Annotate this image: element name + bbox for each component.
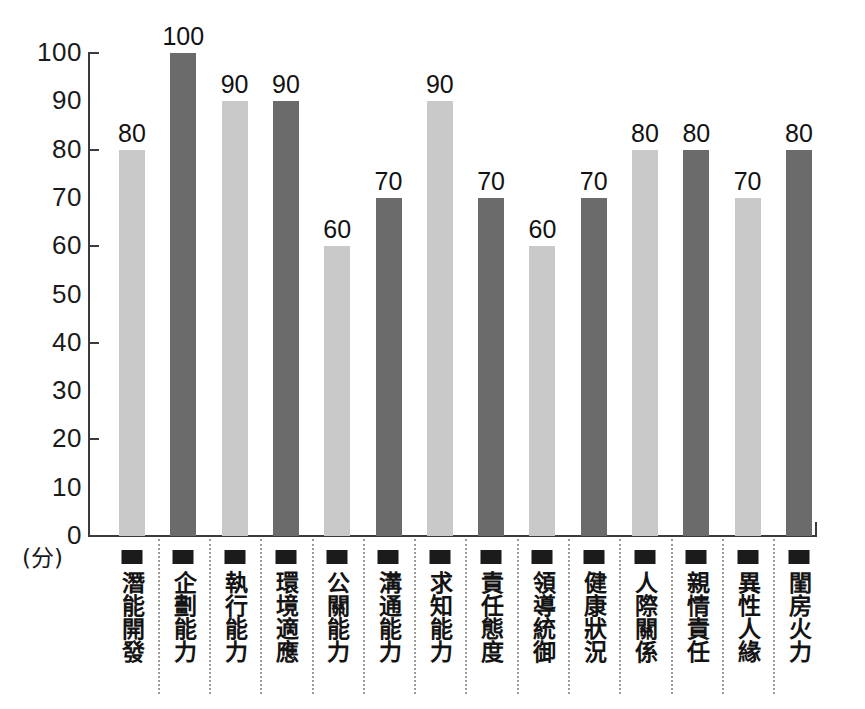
- bar-column: 70: [478, 53, 504, 536]
- bar-column: 80: [683, 53, 709, 536]
- square-bullet-icon: [121, 550, 142, 564]
- category-label: 企劃能力: [171, 571, 196, 663]
- bar-value-label: 80: [682, 121, 710, 146]
- y-axis-tick-label: 60: [24, 232, 82, 258]
- category-label: 公關能力: [325, 571, 350, 663]
- y-axis-tick-label-wrap: 90: [0, 87, 82, 113]
- bar-value-label: 100: [162, 24, 204, 49]
- category-label: 異性人緣: [735, 571, 760, 663]
- category-label: 閨房火力: [787, 571, 812, 663]
- square-bullet-icon: [788, 550, 809, 564]
- bar-value-label: 90: [426, 72, 454, 97]
- category-column: 公關能力: [312, 537, 363, 709]
- bar-value-label: 80: [631, 121, 659, 146]
- y-axis-tick-label: 30: [24, 377, 82, 403]
- y-axis-tick-label: 50: [24, 281, 82, 307]
- bar: [222, 101, 248, 536]
- y-axis-tick-label-wrap: 10: [0, 474, 82, 500]
- bar: [119, 150, 145, 536]
- square-bullet-icon: [173, 550, 194, 564]
- category-label: 人際關係: [633, 571, 658, 663]
- square-bullet-icon: [686, 550, 707, 564]
- bar-value-label: 70: [477, 169, 505, 194]
- category-label: 親情責任: [684, 571, 709, 663]
- category-column: 親情責任: [671, 537, 722, 709]
- bar: [324, 246, 350, 536]
- y-axis-tick-label: 100: [24, 39, 82, 65]
- y-axis-tick-label-wrap: 100: [0, 39, 82, 65]
- bar: [786, 150, 812, 536]
- square-bullet-icon: [429, 550, 450, 564]
- bar-column: 80: [119, 53, 145, 536]
- bar-value-label: 70: [375, 169, 403, 194]
- bar-value-label: 60: [323, 217, 351, 242]
- bar-value-label: 80: [118, 121, 146, 146]
- bar-column: 80: [632, 53, 658, 536]
- plot-area: 80100909060709070607080807080: [90, 53, 817, 536]
- category-column: 潛能開發: [106, 537, 157, 709]
- category-label: 求知能力: [428, 571, 453, 663]
- category-column: 環境適應: [260, 537, 311, 709]
- bar-chart: 1009080706050403020100 (分) 8010090906070…: [0, 0, 865, 709]
- bar: [529, 246, 555, 536]
- category-label: 健康狀況: [581, 571, 606, 663]
- bar-column: 90: [273, 53, 299, 536]
- square-bullet-icon: [327, 550, 348, 564]
- y-axis-tick-label: 80: [24, 136, 82, 162]
- square-bullet-icon: [583, 550, 604, 564]
- bar: [632, 150, 658, 536]
- bar-value-label: 70: [734, 169, 762, 194]
- category-column: 責任態度: [465, 537, 516, 709]
- square-bullet-icon: [378, 550, 399, 564]
- bar-value-label: 90: [221, 72, 249, 97]
- y-axis-tick-label-wrap: 40: [0, 329, 82, 355]
- y-axis-tick-label-wrap: 50: [0, 281, 82, 307]
- y-axis-tick-label: 10: [24, 474, 82, 500]
- category-column: 溝通能力: [363, 537, 414, 709]
- category-column: 求知能力: [414, 537, 465, 709]
- bar: [273, 101, 299, 536]
- square-bullet-icon: [634, 550, 655, 564]
- bar-column: 90: [427, 53, 453, 536]
- y-axis-unit-label: (分): [22, 546, 63, 570]
- category-label: 環境適應: [274, 571, 299, 663]
- y-axis-tick-label: 70: [24, 184, 82, 210]
- y-axis-tick-label-wrap: 30: [0, 377, 82, 403]
- y-axis-tick-label: 90: [24, 87, 82, 113]
- category-label: 潛能開發: [120, 571, 145, 663]
- bar-column: 70: [376, 53, 402, 536]
- bar: [427, 101, 453, 536]
- square-bullet-icon: [275, 550, 296, 564]
- category-label: 責任態度: [479, 571, 504, 663]
- bar-column: 90: [222, 53, 248, 536]
- category-column: 企劃能力: [158, 537, 209, 709]
- y-axis-tick-label-wrap: 80: [0, 136, 82, 162]
- y-axis-tick-label-wrap: 60: [0, 232, 82, 258]
- y-axis-tick-label-wrap: 70: [0, 184, 82, 210]
- bar-value-label: 80: [785, 121, 813, 146]
- bar-column: 70: [735, 53, 761, 536]
- category-column: 健康狀況: [568, 537, 619, 709]
- y-axis-tick-label: 20: [24, 425, 82, 451]
- category-label: 溝通能力: [376, 571, 401, 663]
- category-column: 閨房火力: [773, 537, 824, 709]
- bar-value-label: 60: [528, 217, 556, 242]
- bar-column: 80: [786, 53, 812, 536]
- bar-column: 70: [581, 53, 607, 536]
- category-label: 領導統御: [530, 571, 555, 663]
- bar: [478, 198, 504, 536]
- category-column: 執行能力: [209, 537, 260, 709]
- bar: [683, 150, 709, 536]
- category-axis: 潛能開發企劃能力執行能力環境適應公關能力溝通能力求知能力責任態度領導統御健康狀況…: [90, 537, 817, 709]
- square-bullet-icon: [737, 550, 758, 564]
- bar: [376, 198, 402, 536]
- bar: [170, 53, 196, 536]
- bar-column: 60: [529, 53, 555, 536]
- bar-column: 100: [170, 53, 196, 536]
- square-bullet-icon: [532, 550, 553, 564]
- category-column: 領導統御: [517, 537, 568, 709]
- category-label: 執行能力: [222, 571, 247, 663]
- bar-column: 60: [324, 53, 350, 536]
- y-axis-tick-label: 40: [24, 329, 82, 355]
- bar: [581, 198, 607, 536]
